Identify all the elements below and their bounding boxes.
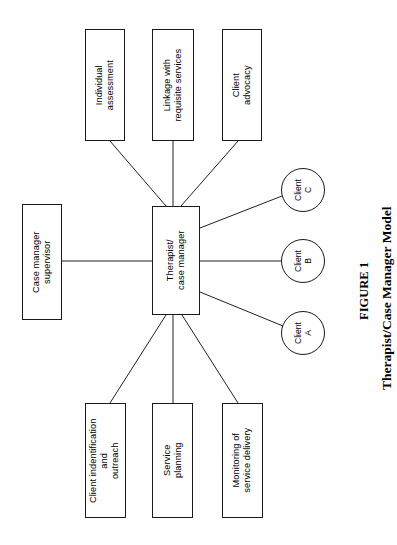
node-therapist-case-manager[interactable]: Therapist/ case manager <box>152 206 200 315</box>
node-case-manager-supervisor[interactable]: Case manager supervisor <box>22 204 62 320</box>
node-client-a[interactable]: Client A <box>281 311 325 355</box>
node-label: Client advocacy <box>231 65 253 105</box>
edge-center-to-client-advocacy <box>181 141 238 206</box>
node-linkage-with-requisite-services[interactable]: Linkage with requisite services <box>152 29 194 141</box>
edge-center-to-monitoring <box>182 315 238 403</box>
node-individual-assessment[interactable]: Individual assessment <box>85 29 125 141</box>
node-label: Client B <box>293 250 313 272</box>
edge-center-to-client-identification <box>110 315 166 403</box>
node-client-identification-outreach[interactable]: Client indentification and outreach <box>85 403 126 518</box>
node-label: Service planning <box>161 443 183 479</box>
node-client-c[interactable]: Client C <box>281 168 325 212</box>
node-label: Client A <box>293 322 313 344</box>
node-client-b[interactable]: Client B <box>281 239 325 283</box>
node-monitoring-of-service-delivery[interactable]: Monitoring of service delivery <box>222 403 263 518</box>
node-label: Individual assessment <box>94 60 116 110</box>
node-label: Case manager supervisor <box>31 231 53 292</box>
node-label: Therapist/ case manager <box>165 231 187 290</box>
node-label: Monitoring of service delivery <box>231 428 253 493</box>
node-label: Linkage with requisite services <box>162 49 184 122</box>
node-label: Client C <box>293 179 313 201</box>
edge-center-to-individual-assessment <box>110 141 166 206</box>
node-label: Client indentification and outreach <box>89 418 123 502</box>
node-client-advocacy[interactable]: Client advocacy <box>222 29 262 141</box>
figure-page: Individual assessment Linkage with requi… <box>0 0 397 545</box>
edge-center-to-client-a <box>200 292 283 326</box>
edge-center-to-client-c <box>200 196 282 228</box>
node-service-planning[interactable]: Service planning <box>152 403 193 518</box>
